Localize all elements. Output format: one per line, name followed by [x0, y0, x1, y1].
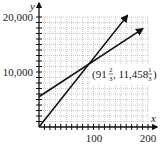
intersection-annotation: (91 2 3 , 11,458 1 3 )	[90, 64, 158, 84]
x-axis-label: x	[150, 112, 156, 124]
annotation-mid: , 11,458	[113, 68, 149, 80]
annotation-frac2-num: 1	[148, 66, 152, 74]
line-chart: y x 20,000 10,000 100 200 (91 2 3 , 11,4…	[0, 0, 160, 145]
annotation-open: (91	[92, 68, 107, 81]
y-tick-label-10000: 10,000	[3, 66, 34, 78]
shallow-line	[39, 29, 143, 97]
annotation-frac2-den: 3	[148, 75, 152, 83]
annotation-close: )	[153, 68, 157, 81]
y-tick-label-20000: 20,000	[3, 11, 34, 23]
x-tick-label-100: 100	[86, 132, 103, 144]
x-tick-label-200: 200	[140, 132, 157, 144]
